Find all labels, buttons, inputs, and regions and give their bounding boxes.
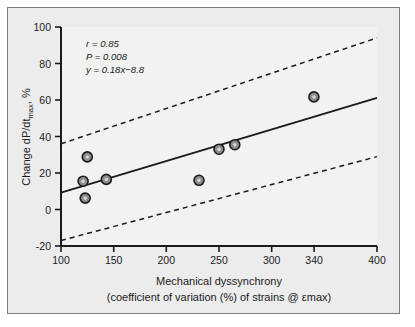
data-point[interactable] bbox=[82, 152, 92, 162]
y-axis-label-subscript: max bbox=[26, 104, 35, 119]
annotation-correlation: r = 0.85 bbox=[86, 38, 119, 49]
y-tick-label-20: 20 bbox=[39, 167, 51, 179]
x-tick-label-200: 200 bbox=[158, 254, 176, 266]
y-tick-label-40: 40 bbox=[39, 131, 51, 143]
y-axis-tick-labels: 100 80 60 40 20 0 -20 bbox=[33, 21, 51, 252]
y-axis-label-tail: , % bbox=[20, 88, 32, 104]
y-tick-label-60: 60 bbox=[39, 94, 51, 106]
x-axis-tick-labels: 100 150 200 250 300 340 400 bbox=[52, 254, 386, 266]
y-axis-label-main: Change dP/dt bbox=[20, 118, 32, 185]
scatter-plot: 100 80 60 40 20 0 -20 100 150 200 250 30… bbox=[0, 0, 415, 327]
data-point[interactable] bbox=[78, 176, 88, 186]
y-tick-label-minus20: -20 bbox=[36, 240, 51, 252]
annotation-equation: y = 0.18x−8.8 bbox=[85, 64, 145, 75]
x-tick-label-340: 340 bbox=[305, 254, 323, 266]
y-tick-label-80: 80 bbox=[39, 58, 51, 70]
x-tick-label-150: 150 bbox=[105, 254, 123, 266]
x-tick-label-100: 100 bbox=[52, 254, 70, 266]
y-tick-label-100: 100 bbox=[33, 21, 51, 33]
y-axis-label: Change dP/dtmax, % bbox=[20, 88, 35, 186]
data-point[interactable] bbox=[309, 92, 319, 102]
annotation-p-value: P = 0.008 bbox=[86, 51, 128, 62]
x-tick-label-300: 300 bbox=[263, 254, 281, 266]
data-point[interactable] bbox=[80, 193, 90, 203]
data-point[interactable] bbox=[101, 174, 111, 184]
data-point[interactable] bbox=[230, 140, 240, 150]
data-point[interactable] bbox=[194, 175, 204, 185]
figure-container: 100 80 60 40 20 0 -20 100 150 200 250 30… bbox=[0, 0, 415, 327]
x-tick-label-400: 400 bbox=[368, 254, 386, 266]
data-point[interactable] bbox=[214, 144, 224, 154]
svg-text:Change dP/dtmax, %: Change dP/dtmax, % bbox=[20, 88, 35, 186]
x-axis-label-line2: (coefficient of variation (%) of strains… bbox=[107, 291, 331, 303]
y-tick-label-0: 0 bbox=[45, 204, 51, 216]
x-axis-label-line1: Mechanical dyssynchrony bbox=[156, 275, 282, 287]
x-tick-label-250: 250 bbox=[210, 254, 228, 266]
